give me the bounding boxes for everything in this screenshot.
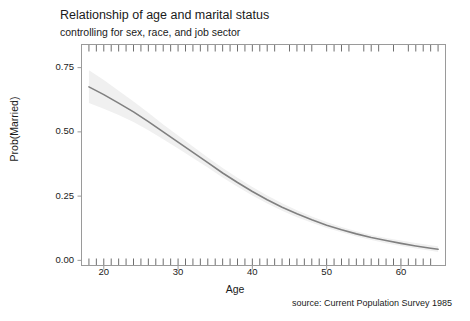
x-tick-label: 40 <box>247 266 258 277</box>
y-axis-label: Prob(Married) <box>8 79 20 179</box>
x-tick-label: 50 <box>321 266 332 277</box>
y-tick-label: 0.75 <box>56 61 75 72</box>
chart-title: Relationship of age and marital status <box>60 8 269 22</box>
x-tick-label: 20 <box>98 266 109 277</box>
chart-subtitle: controlling for sex, race, and job secto… <box>60 26 240 38</box>
x-axis-label: Age <box>0 283 470 295</box>
plot-frame <box>82 45 446 266</box>
chart-figure: Relationship of age and marital status c… <box>0 0 470 321</box>
y-tick-label: 0.50 <box>56 125 75 136</box>
rug-plot-top <box>89 45 438 52</box>
confidence-band <box>89 70 438 252</box>
y-tick-label: 0.00 <box>56 254 75 265</box>
x-axis-tick-labels: 2030405060 <box>0 266 470 282</box>
x-tick-label: 60 <box>396 266 407 277</box>
y-tick-label: 0.25 <box>56 190 75 201</box>
rug-plot-bottom <box>89 259 431 266</box>
source-caption: source: Current Population Survey 1985 <box>292 298 452 308</box>
y-axis-tick-marks <box>78 68 82 261</box>
x-tick-label: 30 <box>173 266 184 277</box>
